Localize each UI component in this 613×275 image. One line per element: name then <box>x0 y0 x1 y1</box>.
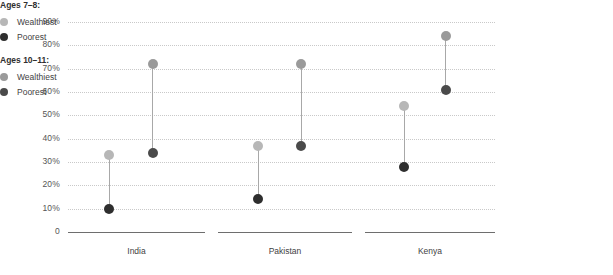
data-point[interactable] <box>148 148 158 158</box>
y-axis-tick-label: 0 <box>14 226 60 236</box>
legend-item[interactable]: Wealthiest <box>0 17 613 27</box>
gridline <box>68 185 495 186</box>
data-point[interactable] <box>104 204 114 214</box>
gridline <box>68 115 495 116</box>
legend-item[interactable]: Wealthiest <box>0 72 613 82</box>
connector-line <box>404 106 405 167</box>
y-axis-tick-label: 10% <box>14 203 60 213</box>
legend-item-label: Poorest <box>17 32 46 42</box>
legend-swatch-icon <box>0 73 8 81</box>
x-axis-segment <box>218 232 352 233</box>
x-axis-segment <box>365 232 495 233</box>
legend-item[interactable]: Poorest <box>0 87 613 97</box>
data-point[interactable] <box>253 194 263 204</box>
y-axis-tick-label: 20% <box>14 179 60 189</box>
y-axis-tick-label: 30% <box>14 156 60 166</box>
x-axis-category-label: Kenya <box>365 246 495 256</box>
gridline <box>68 209 495 210</box>
gridline <box>68 162 495 163</box>
data-point[interactable] <box>253 141 263 151</box>
legend-item-label: Wealthiest <box>17 72 57 82</box>
legend-group-title: Ages 10–11: <box>0 55 613 65</box>
legend-item-label: Poorest <box>17 87 46 97</box>
y-axis-tick-label: 40% <box>14 133 60 143</box>
x-axis-category-label: India <box>68 246 205 256</box>
data-point[interactable] <box>399 162 409 172</box>
legend-swatch-icon <box>0 33 8 41</box>
chart-container: 90%80%70%60%50%40%30%20%10%0IndiaPakista… <box>0 0 613 275</box>
legend-block: Ages 10–11:WealthiestPoorest <box>0 55 613 97</box>
x-axis-category-label: Pakistan <box>218 246 352 256</box>
legend-group-title: Ages 7–8: <box>0 0 613 10</box>
gridline <box>68 139 495 140</box>
legend-block: Ages 7–8:WealthiestPoorest <box>0 0 613 42</box>
legend-swatch-icon <box>0 18 8 26</box>
legend-item-label: Wealthiest <box>17 17 57 27</box>
x-axis-segment <box>68 232 205 233</box>
legend-swatch-icon <box>0 88 8 96</box>
data-point[interactable] <box>296 141 306 151</box>
y-axis-tick-label: 50% <box>14 109 60 119</box>
data-point[interactable] <box>399 101 409 111</box>
connector-line <box>258 146 259 200</box>
connector-line <box>109 155 110 209</box>
legend-item[interactable]: Poorest <box>0 32 613 42</box>
gridline <box>68 45 495 46</box>
data-point[interactable] <box>104 150 114 160</box>
